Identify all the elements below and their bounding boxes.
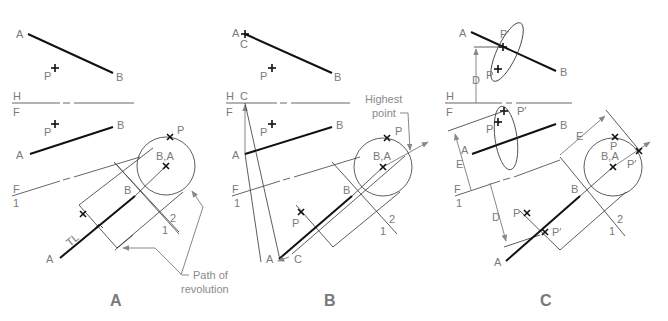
fold-label-1: 1: [380, 225, 386, 237]
dim-e: E: [576, 130, 583, 142]
label-a: A: [461, 144, 469, 156]
panel-caption-b: B: [324, 292, 336, 309]
label-b: B: [124, 184, 131, 196]
fold-label-1: 1: [456, 197, 462, 209]
label-p-prime: P′: [552, 226, 561, 238]
point-p-marker: [51, 64, 59, 72]
label-a: A: [494, 256, 502, 268]
label-ba: B,A: [156, 150, 174, 162]
label-b: B: [560, 66, 567, 78]
label-a: A: [16, 28, 24, 40]
fold-line-f1: [232, 181, 280, 196]
label-a: A: [459, 27, 467, 39]
fold-label-f: F: [446, 106, 453, 118]
label-p: P: [177, 124, 184, 136]
dim-e: E: [456, 158, 463, 170]
label-a: A: [232, 149, 240, 161]
fold-label-f: F: [13, 106, 20, 118]
fold-label-h: H: [226, 90, 234, 102]
point-ba-marker: [163, 163, 169, 169]
label-p: P: [486, 69, 493, 81]
line-ab-front-view: [472, 124, 556, 154]
label-c: C: [240, 38, 248, 50]
label-p: P: [260, 70, 267, 82]
point-p-marker: [51, 120, 59, 128]
fold-label-f: F: [454, 183, 461, 195]
fold-label-f: F: [13, 183, 20, 195]
callout-path-of-revolution-line1: Path of: [193, 269, 229, 281]
line-ab-front-view: [245, 127, 332, 154]
label-a: A: [46, 253, 54, 265]
label-a: A: [266, 253, 274, 265]
label-a: A: [16, 149, 24, 161]
label-ba: B,A: [373, 150, 391, 162]
callout-highest-point-line2: point: [372, 107, 396, 119]
callout-highest-point-line1: Highest: [365, 93, 402, 105]
line-ab-top-view: [28, 34, 113, 73]
label-b: B: [334, 71, 341, 83]
label-b: B: [336, 119, 343, 131]
descriptive-geometry-figure: A B P H F A B P F 1 A B TL: [0, 0, 668, 321]
point-ba-marker: [610, 164, 616, 170]
line-ab-top-view: [245, 34, 332, 73]
label-b: B: [116, 71, 123, 83]
label-ba: B,A: [601, 150, 619, 162]
fold-label-2: 2: [170, 212, 176, 224]
panel-caption-a: A: [110, 292, 122, 309]
label-p: P: [292, 217, 299, 229]
point-p-marker: [268, 120, 276, 128]
line-ab-true-length: [60, 196, 135, 258]
label-p: P: [486, 123, 493, 135]
line-ab-true-length: [279, 196, 352, 259]
label-p-prime: P′: [500, 28, 509, 40]
point-p-marker: [494, 65, 502, 73]
label-c: C: [294, 253, 302, 265]
panel-a: A B P H F A B P F 1 A B TL: [12, 28, 229, 309]
label-tl: TL: [64, 231, 82, 248]
label-b: B: [571, 183, 578, 195]
dim-d: D: [492, 211, 500, 223]
point-p-marker: [298, 209, 304, 215]
label-b: B: [343, 184, 350, 196]
label-p-prime: P′: [627, 158, 636, 170]
label-p: P: [44, 126, 51, 138]
line-ab-top-view: [471, 32, 556, 71]
fold-label-2: 2: [617, 213, 623, 225]
fold-label-2: 2: [389, 213, 395, 225]
fold-label-c: C: [240, 90, 248, 102]
label-p-prime: P′: [517, 105, 526, 117]
label-p: P: [513, 207, 520, 219]
fold-label-f: F: [232, 183, 239, 195]
point-ba-marker: [380, 164, 386, 170]
panel-caption-c: C: [540, 292, 552, 309]
callout-path-of-revolution-line2: revolution: [181, 283, 229, 295]
fold-label-1: 1: [234, 197, 240, 209]
fold-label-1: 1: [162, 224, 168, 236]
point-p-marker: [80, 211, 86, 217]
fold-label-1: 1: [13, 197, 19, 209]
panel-b: A C B P H C F A B P F 1 A C B: [226, 27, 428, 309]
label-b: B: [117, 119, 124, 131]
panel-c: A B P′ P D H F A B P′ P E F 1 D: [445, 19, 650, 309]
dim-d: D: [472, 74, 480, 86]
fold-label-h: H: [446, 90, 454, 102]
label-p: P: [44, 70, 51, 82]
line-ab-front-view: [30, 127, 113, 154]
line-ab-true-length: [506, 196, 580, 261]
label-b: B: [560, 119, 567, 131]
fold-label-f: F: [226, 106, 233, 118]
label-p: P: [260, 126, 267, 138]
label-p: P: [395, 125, 402, 137]
label-a: A: [232, 27, 240, 39]
point-p-marker: [494, 118, 502, 126]
point-p-marker: [268, 64, 276, 72]
point-p-marker: [524, 210, 530, 216]
fold-label-h: H: [13, 90, 21, 102]
point-ac-marker: [241, 30, 249, 38]
point-pprime-marker: [542, 229, 548, 235]
fold-label-1: 1: [609, 225, 615, 237]
